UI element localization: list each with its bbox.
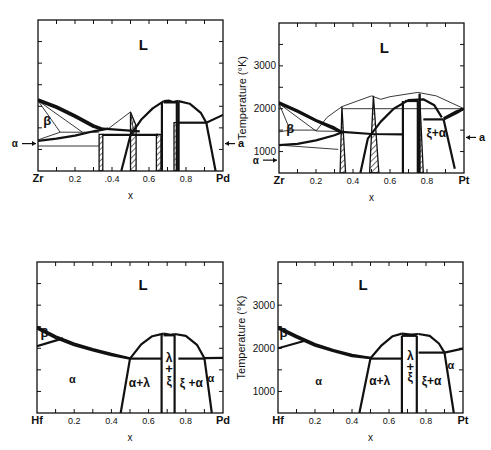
phase-label: β (280, 325, 288, 340)
phase-label: β (43, 113, 51, 128)
figure-canvas: Zr0.2.0.40.60.8PdxLβαa Zr0.20.40.60.8Ptx… (0, 0, 491, 450)
y-tick-label: 3000 (254, 60, 277, 71)
phase-diagram-figure: Zr0.2.0.40.60.8PdxLβαa Zr0.20.40.60.8Ptx… (0, 0, 491, 450)
phase-label: α+λ (129, 376, 150, 390)
arrow-left-icon (466, 135, 470, 140)
x-tick-label: Zr (274, 174, 286, 186)
y-tick-label: 1000 (253, 386, 276, 397)
hatched-compound-region (99, 134, 103, 171)
y-tick-label: 2000 (254, 103, 277, 114)
phase-boundary (444, 109, 464, 118)
phase-boundary (121, 135, 130, 171)
phase-label: ξ +α (180, 376, 204, 390)
y-tick-label: 2000 (253, 343, 276, 354)
x-tick-label: 0.6 (143, 174, 156, 184)
arrow-left-icon (225, 141, 229, 146)
phase-label: L (138, 276, 147, 293)
phase-label: β (286, 121, 294, 136)
x-tick-label: 0.4 (346, 416, 359, 426)
hatched-compound-region (131, 112, 137, 171)
y-tick-label: 3000 (253, 300, 276, 311)
hatched-compound-region (340, 107, 346, 173)
phase-label: α (208, 372, 215, 384)
x-axis-label: x (369, 192, 374, 203)
x-axis-label: x (128, 190, 133, 201)
x-tick-label: Hf (272, 414, 284, 426)
phase-label: α (448, 359, 455, 371)
x-tick-label: 0.6 (384, 176, 397, 186)
x-tick-label: 0.4 (105, 416, 118, 426)
phase-boundary-thin (279, 145, 338, 149)
phase-boundary (175, 334, 205, 358)
x-tick-label: 0.8 (180, 416, 193, 426)
x-tick-label: Pd (216, 414, 230, 426)
phase-label: L (139, 36, 148, 53)
phase-boundary (402, 334, 419, 335)
plot-frame (37, 262, 223, 413)
phase-label: α (69, 373, 76, 385)
x-tick-label: 0.2 (309, 416, 322, 426)
phase-boundary (204, 358, 211, 413)
phase-boundary (38, 129, 108, 141)
chart-panel-zr-pd: Zr0.2.0.40.60.8PdxLβαa (12, 20, 245, 201)
plot-area (278, 327, 463, 413)
phase-label: ξ+α (422, 374, 442, 388)
phase-boundary (445, 349, 464, 353)
phase-boundary (419, 334, 445, 353)
plot-area (37, 327, 223, 413)
phase-label: ξ (166, 374, 172, 388)
phase-boundary (371, 334, 402, 359)
x-tick-label: 0.6 (383, 416, 396, 426)
phase-boundary (206, 123, 215, 171)
x-tick-label: 0.2 (69, 174, 82, 184)
phase-label: α+λ (369, 374, 390, 388)
x-tick-label: .0.4 (104, 174, 119, 184)
y-axis-label: Temperature (°K) (235, 296, 247, 380)
x-tick-label: 0.2 (68, 416, 81, 426)
x-tick-label: 0.8 (421, 176, 434, 186)
x-tick-label: 0.8 (420, 416, 433, 426)
x-tick-label: 0.4 (347, 176, 360, 186)
arrow-marker-label: a (479, 131, 486, 143)
phase-label: L (359, 276, 368, 293)
arrow-marker-label: α (253, 155, 260, 166)
chart-panel-zr-pt: Zr0.20.40.60.8Ptx100020003000Temperature… (236, 23, 486, 203)
x-axis-label: x (368, 432, 373, 443)
phase-boundary (206, 115, 223, 123)
plot-area (38, 99, 223, 171)
phase-label: β (40, 325, 48, 340)
phase-label: ξ (408, 370, 414, 384)
chart-panel-hf-pd: Hf0.20.40.60.8PdxLβαα+λλ+ξξ +αα (31, 262, 230, 443)
chart-panel-hf-pt: Hf0.20.40.60.8Ptx100020003000Temperature… (235, 262, 469, 443)
phase-boundary-thin (108, 112, 130, 129)
x-tick-label: 0.2 (310, 176, 323, 186)
arrow-right-icon (32, 141, 36, 146)
x-tick-label: 0.6 (142, 416, 155, 426)
x-tick-label: Pt (458, 414, 469, 426)
phase-boundary (179, 101, 207, 123)
x-tick-label: Hf (31, 414, 43, 426)
phase-label: L (380, 39, 389, 56)
plot-frame (278, 262, 463, 413)
x-tick-label: Pd (216, 172, 230, 184)
phase-label: ξ+α (426, 126, 446, 140)
x-tick-label: Zr (33, 172, 45, 184)
arrow-right-icon (273, 158, 277, 163)
phase-boundary (130, 334, 164, 359)
arrow-marker-label: α (12, 138, 19, 149)
x-tick-label: 0.8 (180, 174, 193, 184)
phase-boundary (278, 327, 371, 358)
phase-label: α (315, 375, 322, 387)
hatched-compound-region (156, 134, 161, 171)
phase-boundary (278, 341, 306, 349)
x-tick-label: Pt (459, 174, 470, 186)
y-axis-label: Temperature (°K) (236, 56, 248, 140)
x-axis-label: x (128, 432, 133, 443)
